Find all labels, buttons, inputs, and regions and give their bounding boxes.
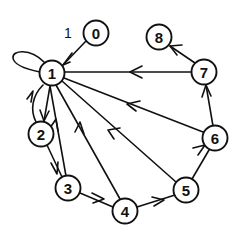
edge-5-to-6-path [192, 150, 209, 179]
edge-labels-layer: 1 [64, 25, 72, 41]
node-5[interactable]: 5 [174, 178, 199, 203]
edge-7-to-8-path [170, 46, 195, 63]
edge-5-to-1-path [62, 81, 176, 182]
node-8-label: 8 [155, 29, 163, 46]
node-6-label: 6 [211, 130, 219, 147]
node-0-label: 0 [92, 25, 100, 42]
edge-2-to-3-arrowhead [51, 162, 58, 174]
nodes-layer: 0 1 2 3 4 5 [29, 21, 228, 224]
node-4[interactable]: 4 [113, 199, 138, 224]
edge-4-to-5 [137, 195, 175, 207]
edge-7-to-1 [65, 66, 191, 78]
edge-1-to-2 [40, 86, 50, 121]
edge-5-to-1 [62, 81, 176, 182]
node-2[interactable]: 2 [29, 122, 54, 147]
graph-canvas: 1 0 1 2 3 4 [0, 0, 239, 238]
edge-0-to-1 [63, 41, 86, 65]
node-6[interactable]: 6 [203, 126, 228, 151]
edge-3-to-4 [80, 193, 113, 207]
node-7-label: 7 [200, 64, 208, 81]
edge-5-to-1-arrowhead [108, 128, 120, 139]
edge-5-to-6 [192, 145, 209, 179]
node-5-label: 5 [182, 182, 190, 199]
node-2-label: 2 [37, 126, 45, 143]
edge-2-to-3 [47, 145, 62, 177]
edge-2-to-3-path [47, 145, 62, 177]
node-4-label: 4 [121, 203, 130, 220]
edge-label-self-loop: 1 [64, 25, 72, 41]
edge-6-to-1 [64, 78, 203, 132]
edge-6-to-1-path [64, 78, 203, 132]
node-7[interactable]: 7 [192, 60, 217, 85]
edge-0-to-1-arrowhead [63, 53, 72, 65]
edge-2-to-1 [27, 85, 43, 122]
node-1-label: 1 [48, 65, 56, 82]
node-3[interactable]: 3 [56, 176, 81, 201]
node-8[interactable]: 8 [147, 25, 172, 50]
edge-2-to-1-arrowhead [27, 91, 33, 102]
graph-diagram: 1 0 1 2 3 4 [0, 0, 239, 238]
edge-7-to-8 [170, 45, 195, 63]
node-1[interactable]: 1 [40, 61, 65, 86]
node-3-label: 3 [64, 180, 72, 197]
node-0[interactable]: 0 [84, 21, 109, 46]
edge-5-to-6-arrowhead [193, 145, 205, 155]
edge-2-to-1-path [33, 85, 43, 122]
edge-6-to-7 [202, 85, 213, 126]
